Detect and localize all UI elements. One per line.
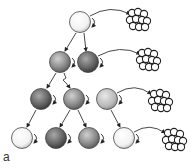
cell bbox=[97, 89, 122, 110]
self-renewal-arrow-icon bbox=[34, 134, 37, 143]
self-renewal-arrow-icon bbox=[101, 134, 104, 143]
cell bbox=[50, 52, 75, 73]
colony-cluster-icon bbox=[148, 89, 172, 111]
self-renewal-arrow-icon bbox=[53, 95, 56, 104]
lineage-diagram: a bbox=[0, 0, 194, 168]
self-renewal-arrow-icon bbox=[136, 134, 139, 143]
self-renewal-arrow-icon bbox=[119, 95, 122, 104]
self-renewal-arrow-icon bbox=[86, 95, 89, 104]
cell bbox=[31, 89, 56, 110]
cell bbox=[78, 52, 103, 73]
self-renewal-arrow-icon bbox=[72, 58, 75, 67]
colony-cluster-icon bbox=[126, 8, 150, 30]
colony-cluster-icon bbox=[162, 128, 186, 150]
cell bbox=[64, 89, 89, 110]
self-renewal-arrow-icon bbox=[100, 58, 103, 67]
cell bbox=[114, 128, 139, 149]
colony-cluster-icon bbox=[136, 48, 160, 70]
cell bbox=[12, 128, 37, 149]
lineage-tree-graphic bbox=[0, 0, 194, 168]
self-renewal-arrow-icon bbox=[68, 134, 71, 143]
cell bbox=[70, 12, 95, 33]
cell bbox=[46, 128, 71, 149]
panel-label: a bbox=[3, 150, 10, 164]
self-renewal-arrow-icon bbox=[92, 18, 95, 27]
cell bbox=[79, 128, 104, 149]
